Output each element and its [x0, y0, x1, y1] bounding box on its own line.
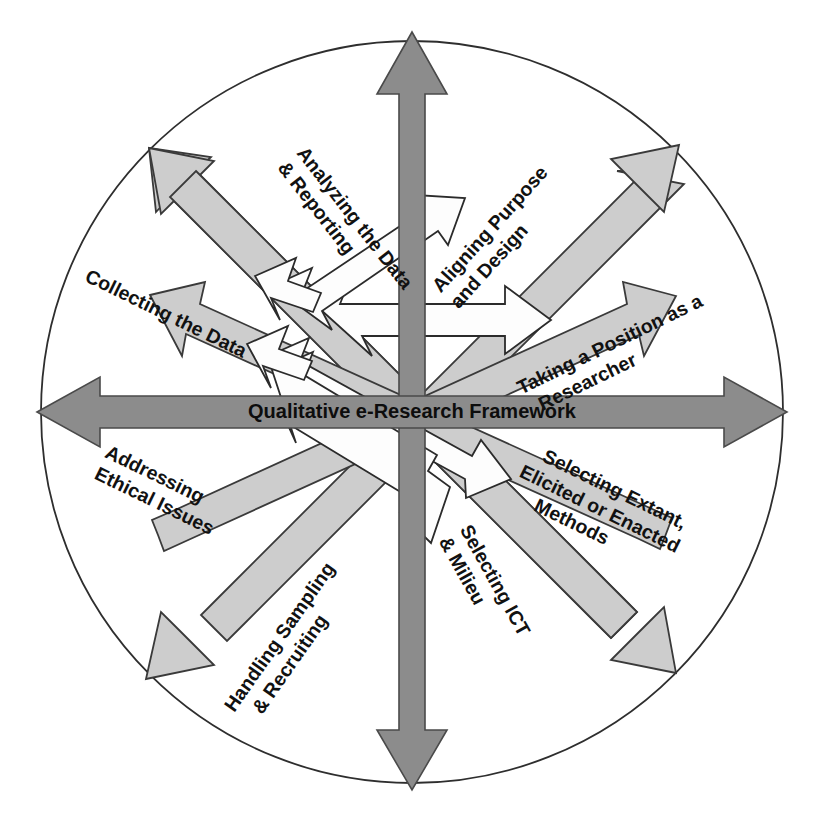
qualitative-e-research-framework-diagram: Qualitative e-Research Framework Analyzi…	[0, 0, 813, 828]
framework-figure: Qualitative e-Research Framework Analyzi…	[0, 0, 813, 828]
center-title: Qualitative e-Research Framework	[248, 400, 577, 422]
